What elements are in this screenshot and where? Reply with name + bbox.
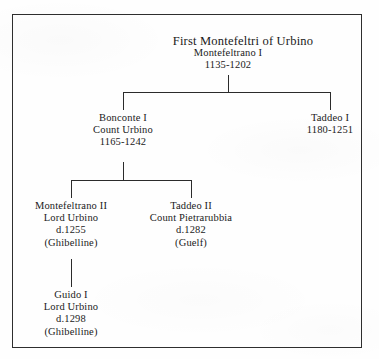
connector-taddeo-ii-drop [191, 180, 192, 198]
node-line: Lord Urbino [35, 212, 107, 224]
node-montefeltrano-ii: Montefeltrano II Lord Urbino d.1255 (Ghi… [35, 200, 107, 249]
connector-root-stem [228, 75, 229, 92]
connector-bonconte-drop [123, 92, 124, 110]
node-line: d.1298 [44, 313, 98, 325]
node-line: 1180-1251 [307, 124, 353, 136]
node-guido-i: Guido I Lord Urbino d.1298 (Ghibelline) [44, 289, 98, 338]
connector-montefeltrano-ii-drop [71, 180, 72, 198]
node-line: Taddeo I [307, 112, 353, 124]
connector-guido-stem [71, 259, 72, 287]
node-line: d.1255 [35, 224, 107, 236]
node-taddeo-i: Taddeo I 1180-1251 [307, 112, 353, 136]
node-line: 1165-1242 [93, 136, 153, 148]
node-line: Guido I [44, 289, 98, 301]
node-montefeltrano-i: Montefeltrano I 1135-1202 [194, 47, 262, 71]
node-line: Montefeltrano II [35, 200, 107, 212]
node-bonconte-i: Bonconte I Count Urbino 1165-1242 [93, 112, 153, 149]
node-line: d.1282 [150, 224, 232, 236]
family-tree-frame: First Montefeltri of Urbino Montefeltran… [12, 14, 362, 348]
node-line: Count Pietrarubbia [150, 212, 232, 224]
node-line: (Ghibelline) [35, 237, 107, 249]
node-line: Taddeo II [150, 200, 232, 212]
connector-gen2-bar [123, 92, 331, 93]
node-line: Lord Urbino [44, 301, 98, 313]
node-line: (Guelf) [150, 237, 232, 249]
node-line: 1135-1202 [194, 59, 262, 71]
connector-bonconte-stem [123, 162, 124, 180]
node-line: Bonconte I [93, 112, 153, 124]
node-line: (Ghibelline) [44, 326, 98, 338]
node-line: Montefeltrano I [194, 47, 262, 59]
connector-gen3-bar [71, 180, 191, 181]
node-line: Count Urbino [93, 124, 153, 136]
node-taddeo-ii: Taddeo II Count Pietrarubbia d.1282 (Gue… [150, 200, 232, 249]
connector-taddeo-i-drop [330, 92, 331, 110]
